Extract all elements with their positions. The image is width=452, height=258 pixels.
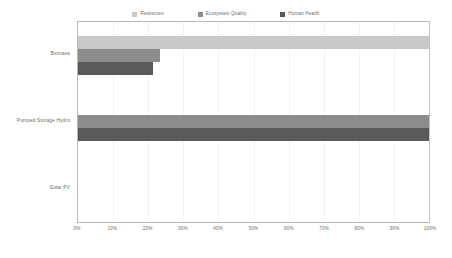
bar-row [78,169,429,182]
legend-entry-ecosystem-quality[interactable]: Ecosystem Quality [198,12,247,17]
bar-row [78,182,429,195]
bar-pumped-storage-hydro-ecosystem-quality[interactable] [78,115,429,128]
bar-biomass-ecosystem-quality[interactable] [78,49,160,62]
value-tick-label: 40% [213,227,223,232]
plot-area [77,21,430,223]
bar-row [78,128,429,141]
value-tick-label: 10% [107,227,117,232]
value-axis-labels: 0%10%20%30%40%50%60%70%80%90%100% [77,227,430,239]
bar-biomass-resources[interactable] [78,36,429,49]
bar-pumped-storage-hydro-human-health[interactable] [78,128,429,141]
bar-row [78,195,429,208]
value-tick-label: 30% [178,227,188,232]
value-tick-label: 90% [390,227,400,232]
bar-row [78,115,429,128]
legend-label: Ecosystem Quality [206,12,247,17]
bar-group [78,22,429,89]
bar-group [78,155,429,222]
bar-row [78,62,429,75]
bar-group [78,89,429,156]
legend-label: Resources [140,12,163,17]
bar-row [78,49,429,62]
category-label: Pumped Storage Hydro [17,119,70,124]
value-tick-label: 50% [249,227,259,232]
bar-biomass-human-health[interactable] [78,62,153,75]
legend-swatch-icon [280,12,285,17]
value-tick-label: 0% [74,227,81,232]
legend-swatch-icon [132,12,137,17]
legend-swatch-icon [198,12,203,17]
bars-layer [78,22,429,222]
legend-label: Human Health [288,12,319,17]
value-tick-label: 100% [424,227,436,232]
value-tick-label: 60% [284,227,294,232]
legend-entry-resources[interactable]: Resources [132,12,163,17]
legend-entry-human-health[interactable]: Human Health [280,12,319,17]
category-label: Solar PV [50,185,70,190]
bar-row [78,102,429,115]
category-label: Biomass [51,52,70,57]
value-tick-label: 80% [355,227,365,232]
chart-legend: ResourcesEcosystem QualityHuman Health [0,7,452,21]
category-axis-labels: BiomassPumped Storage HydroSolar PV [0,21,74,223]
value-tick-label: 20% [143,227,153,232]
bar-row [78,36,429,49]
value-tick-label: 70% [319,227,329,232]
bar-chart: ResourcesEcosystem QualityHuman Health B… [0,0,452,258]
